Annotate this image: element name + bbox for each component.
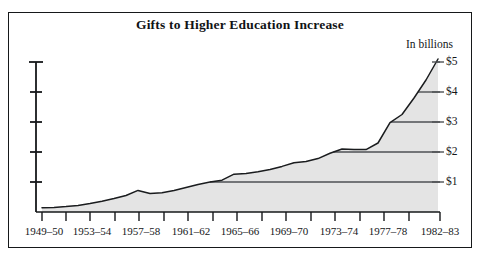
x-axis-ticks [42,212,440,221]
chart-figure: Gifts to Higher Education Increase In bi… [0,0,484,261]
area-fill [42,59,438,212]
series-group [42,59,440,212]
plot-area [8,12,472,248]
y-scale-bar [29,62,43,212]
